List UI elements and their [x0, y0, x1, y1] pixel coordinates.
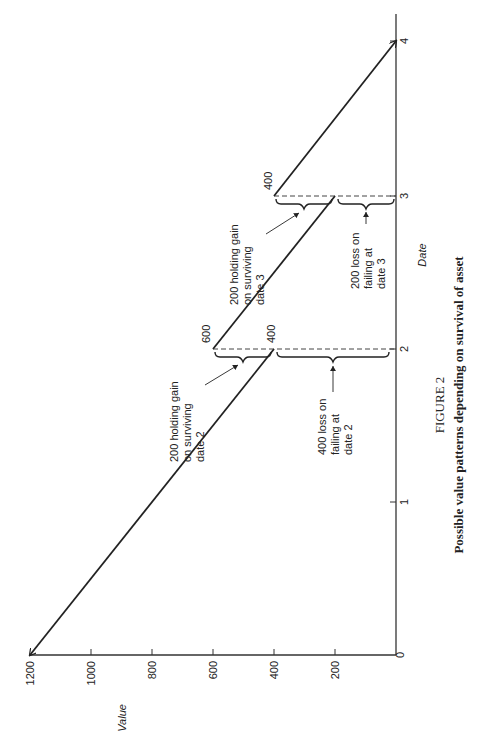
value-axis-title: Value: [116, 704, 128, 732]
svg-text:400 loss on: 400 loss on: [316, 399, 328, 455]
svg-text:200 loss on: 200 loss on: [349, 233, 361, 289]
date-tick-labels: 1 2 3 4: [398, 38, 410, 505]
svg-text:200 holding gain: 200 holding gain: [228, 224, 240, 305]
tick-600: 600: [207, 661, 219, 679]
annotation-loss-date3: 200 loss on failing at date 3: [349, 233, 387, 289]
svg-text:200 holding gain: 200 holding gain: [168, 381, 180, 462]
svg-text:date 2: date 2: [342, 424, 354, 455]
svg-text:date 2: date 2: [194, 431, 206, 462]
point-label-400-date2: 400: [265, 325, 277, 343]
date-axis-title: Date: [416, 243, 428, 266]
svg-text:failing at: failing at: [362, 248, 374, 289]
annotation-gain-date3: 200 holding gain on surviving date 3: [228, 224, 266, 305]
value-ticks: [91, 649, 335, 655]
date-tick-1: 1: [398, 499, 410, 505]
annotation-loss-date2: 400 loss on failing at date 2: [316, 399, 354, 455]
point-label-600: 600: [200, 325, 212, 343]
date-tick-4: 4: [398, 38, 410, 44]
tick-800: 800: [146, 661, 158, 679]
brace-loss-date2: [277, 352, 389, 362]
svg-text:failing at: failing at: [329, 414, 341, 455]
brace-gain-date3: [276, 199, 332, 209]
svg-text:date 3: date 3: [375, 258, 387, 289]
figure-caption: Possible value patterns depending on sur…: [451, 256, 466, 554]
tick-1000: 1000: [85, 661, 97, 685]
date-tick-3: 3: [398, 193, 410, 199]
svg-text:on surviving: on surviving: [241, 246, 253, 305]
series-segment-0-2: [30, 349, 274, 655]
tick-400: 400: [268, 661, 280, 679]
series-segment-3-4: [274, 41, 396, 196]
annotation-gain-date2: 200 holding gain on surviving date 2: [168, 381, 206, 462]
point-label-400-date3: 400: [262, 172, 274, 190]
tick-200: 200: [329, 661, 341, 679]
tick-0: 0: [394, 652, 406, 658]
svg-text:date 3: date 3: [254, 274, 266, 305]
brace-gain-date2: [215, 352, 271, 362]
value-tick-labels: 1200 1000 800 600 400 200 0: [24, 652, 406, 686]
date-ticks: [390, 41, 396, 502]
svg-text:on surviving: on surviving: [181, 403, 193, 462]
chart-figure: 1200 1000 800 600 400 200 0 Value 1 2 3 …: [0, 0, 481, 753]
tick-1200: 1200: [24, 661, 36, 685]
figure-number: FIGURE 2: [432, 377, 447, 434]
brace-loss-date3: [338, 199, 394, 209]
date-tick-2: 2: [398, 346, 410, 352]
